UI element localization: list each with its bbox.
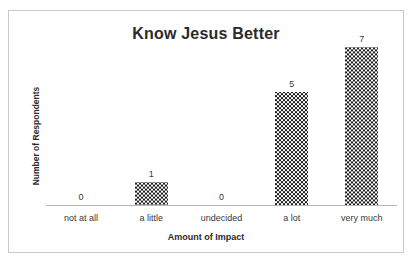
bar-value-label: 0 [79,192,84,203]
x-tick-label: very much [327,210,397,226]
bar-value-label: 7 [359,34,364,45]
bar-value-label: 0 [219,192,224,203]
bar[interactable] [135,182,168,205]
x-tick-label: a little [116,210,186,226]
x-tick-label: not at all [46,210,116,226]
bar-series: 0 1 0 5 7 [46,33,397,205]
x-axis-title: Amount of Impact [9,232,403,242]
x-axis-line [46,205,397,206]
bar-value-label: 1 [149,169,154,180]
x-tick-label: a lot [257,210,327,226]
bar-slot: 5 [257,33,327,205]
x-axis-tick-labels: not at all a little undecided a lot very… [46,210,397,226]
bar[interactable] [345,47,378,205]
bar-slot: 7 [327,33,397,205]
bar-slot: 1 [116,33,186,205]
bar[interactable] [275,92,308,205]
bar-value-label: 5 [289,79,294,90]
y-axis-title: Number of Respondents [31,71,44,201]
x-tick-label: undecided [186,210,256,226]
chart-frame: Know Jesus Better Number of Respondents … [8,10,404,253]
bar-slot: 0 [46,33,116,205]
bar-slot: 0 [186,33,256,205]
y-axis-title-container: Number of Respondents [31,69,44,201]
